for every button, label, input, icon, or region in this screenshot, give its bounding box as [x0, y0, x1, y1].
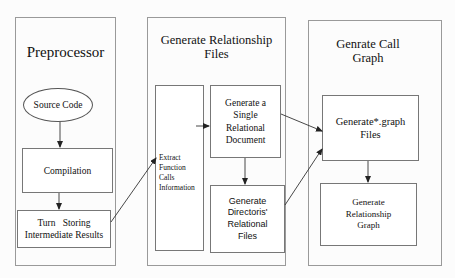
single-label-2: Single — [233, 109, 257, 121]
turn-storing-label-2: Intermediate Results — [25, 229, 103, 241]
dir-label-2: Directoris' — [228, 207, 268, 219]
relationship-graph-node: Generate Relationship Graph — [320, 183, 417, 246]
diagram-canvas: Preprocessor Source Code Compilation Tur… — [0, 0, 455, 278]
compilation-label: Compilation — [44, 166, 92, 176]
graph-files-node: Generate*.graph Files — [322, 95, 419, 161]
source-code-node: Source Code — [23, 88, 93, 122]
graph-files-label-1: Generate*.graph — [336, 115, 406, 128]
extract-label-1: Extract — [159, 153, 195, 163]
relationship-title-line1: Generate Relationship — [147, 33, 286, 47]
extract-node: Extract Function Calls Information — [155, 85, 204, 251]
extract-label-4: Information — [159, 183, 195, 193]
callgraph-title-line2: Graph — [318, 51, 418, 65]
turn-storing-label-1: Turn Storing — [37, 217, 90, 229]
relationship-title-line2: Files — [147, 47, 286, 61]
rel-graph-label-1: Generate — [352, 197, 384, 209]
turn-storing-node: Turn Storing Intermediate Results — [17, 210, 111, 248]
rel-graph-label-2: Relationship — [346, 209, 392, 221]
preprocessor-title: Preprocessor — [15, 44, 116, 61]
relationship-title: Generate Relationship Files — [147, 33, 286, 62]
directories-files-node: Generate Directoris' Relational Files — [210, 185, 285, 253]
dir-label-1: Generate — [229, 196, 267, 208]
dir-label-4: Files — [238, 231, 257, 243]
single-label-3: Relational — [226, 122, 265, 134]
dir-label-3: Relational — [227, 219, 267, 231]
graph-files-label-2: Files — [360, 128, 380, 141]
extract-label-3: Calls — [159, 173, 195, 183]
single-label-1: Generate a — [225, 97, 266, 109]
extract-label-2: Function — [159, 163, 195, 173]
compilation-node: Compilation — [22, 148, 113, 193]
single-document-node: Generate a Single Relational Document — [210, 85, 281, 158]
rel-graph-label-3: Graph — [357, 220, 380, 232]
callgraph-title-line1: Genrate Call — [318, 37, 418, 51]
source-code-label: Source Code — [34, 100, 83, 110]
single-label-4: Document — [226, 134, 266, 146]
callgraph-title: Genrate Call Graph — [318, 37, 418, 66]
